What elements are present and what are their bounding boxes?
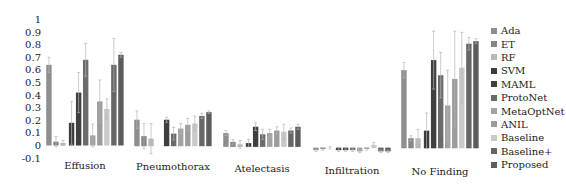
- legend-swatch: [491, 121, 497, 127]
- legend-swatch: [491, 135, 497, 141]
- x-category-label: Effusion: [64, 160, 106, 171]
- legend-label: Baseline: [501, 132, 544, 143]
- y-tick-label: 0.1: [25, 127, 41, 138]
- legend-item: RF: [491, 51, 564, 64]
- grouped-bar-chart: 10.90.80.70.60.50.40.30.20.10-0.1 Effusi…: [0, 0, 566, 186]
- legend-item: MAML: [491, 78, 564, 91]
- legend-swatch: [491, 108, 497, 114]
- legend-label: ET: [501, 39, 515, 50]
- legend-label: Proposed: [501, 159, 548, 170]
- y-tick-label: 0.7: [25, 52, 41, 63]
- y-tick-label: 0.8: [25, 39, 41, 50]
- legend-label: Ada: [501, 25, 521, 36]
- legend-item: MetaOptNet: [491, 104, 564, 117]
- legend-label: ProtoNet: [501, 92, 547, 103]
- legend-swatch: [491, 81, 497, 87]
- y-axis-ticks: 10.90.80.70.60.50.40.30.20.10-0.1: [22, 14, 41, 164]
- y-tick-label: 0.6: [25, 64, 41, 75]
- bar: [473, 41, 478, 148]
- legend-item: ET: [491, 37, 564, 50]
- bar-group-pneumothorax: [134, 111, 211, 154]
- legend-swatch: [491, 68, 497, 74]
- bar-group-effusion: [46, 38, 123, 146]
- bar-group-infiltration: [313, 143, 390, 153]
- legend-label: SVM: [501, 65, 525, 76]
- bar: [466, 44, 471, 149]
- legend-item: Baseline: [491, 131, 564, 144]
- bar: [164, 120, 169, 146]
- legend-item: Ada: [491, 24, 564, 37]
- legend-swatch: [491, 162, 497, 168]
- legend-item: ProtoNet: [491, 91, 564, 104]
- legend-swatch: [491, 28, 497, 34]
- bar-group-no-finding: [401, 31, 478, 148]
- chart-legend: AdaETRFSVMMAMLProtoNetMetaOptNetANILBase…: [491, 24, 564, 171]
- plot-area: [46, 31, 478, 154]
- bar: [199, 116, 204, 146]
- x-category-label: Infiltration: [325, 165, 380, 176]
- bar: [206, 112, 211, 146]
- legend-label: MAML: [501, 79, 535, 90]
- legend-item: ANIL: [491, 118, 564, 131]
- legend-label: MetaOptNet: [501, 106, 564, 117]
- y-tick-label: 0: [35, 140, 41, 151]
- x-category-label: Pneumothorax: [136, 161, 210, 172]
- legend-swatch: [491, 41, 497, 47]
- x-category-label: No Finding: [412, 166, 470, 177]
- x-category-label: Atelectasis: [233, 163, 289, 174]
- legend-swatch: [491, 54, 497, 60]
- legend-label: Baseline+: [501, 146, 553, 157]
- y-tick-label: 0.5: [25, 77, 41, 88]
- legend-label: RF: [501, 52, 515, 63]
- bar: [46, 65, 51, 146]
- y-tick-label: 0.9: [25, 27, 41, 38]
- legend-swatch: [491, 148, 497, 154]
- bar: [118, 55, 123, 146]
- y-tick-label: 0.2: [25, 115, 41, 126]
- bar: [295, 127, 300, 147]
- legend-label: ANIL: [501, 119, 528, 130]
- bar: [401, 70, 406, 148]
- y-tick-label: 1: [35, 14, 41, 25]
- legend-swatch: [491, 95, 497, 101]
- y-tick-label: 0.3: [25, 102, 41, 113]
- legend-item: SVM: [491, 64, 564, 77]
- x-axis-category-labels: EffusionPneumothoraxAtelectasisInfiltrat…: [64, 160, 469, 177]
- bar-group-atelectasis: [223, 123, 300, 148]
- legend-item: Proposed: [491, 158, 564, 171]
- y-tick-label: 0.4: [25, 90, 41, 101]
- y-tick-label: -0.1: [22, 153, 41, 164]
- legend-item: Baseline+: [491, 145, 564, 158]
